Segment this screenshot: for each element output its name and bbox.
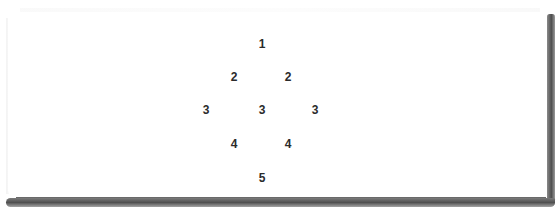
frame-bottom-shadow bbox=[6, 198, 555, 207]
diamond-cell-row2-2: 2 bbox=[278, 69, 298, 85]
diamond-cell-row3-2: 3 bbox=[252, 102, 272, 118]
diamond-cell-row4-1: 4 bbox=[224, 136, 244, 152]
diamond-cell-row3-1: 3 bbox=[196, 102, 216, 118]
diamond-cell-row4-2: 4 bbox=[278, 136, 298, 152]
panel-frame bbox=[8, 12, 549, 198]
diamond-cell-row1-1: 1 bbox=[252, 36, 272, 52]
frame-right-shadow bbox=[547, 14, 555, 206]
diamond-cell-row5-1: 5 bbox=[252, 170, 272, 186]
diamond-cell-row3-3: 3 bbox=[305, 102, 325, 118]
diamond-cell-row2-1: 2 bbox=[224, 69, 244, 85]
frame-bottom-inner-line bbox=[16, 197, 546, 198]
